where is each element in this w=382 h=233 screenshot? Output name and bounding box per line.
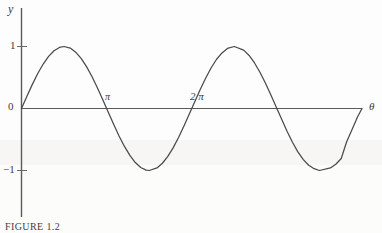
origin-label-zero: 0 [8, 101, 14, 112]
x-axis-label: θ [369, 101, 374, 112]
sine-wave-plot [0, 0, 382, 233]
y-tick-label-negative-one: −1 [3, 164, 15, 175]
figure-container: y θ 1 0 −1 π 2 π FIGURE 1.2 [0, 0, 382, 233]
x-tick-label-two-pi: 2 π [190, 91, 204, 102]
y-axis-label: y [8, 3, 13, 15]
y-tick-label-one: 1 [10, 40, 16, 51]
figure-caption: FIGURE 1.2 [5, 221, 60, 232]
x-tick-label-pi: π [105, 92, 110, 102]
